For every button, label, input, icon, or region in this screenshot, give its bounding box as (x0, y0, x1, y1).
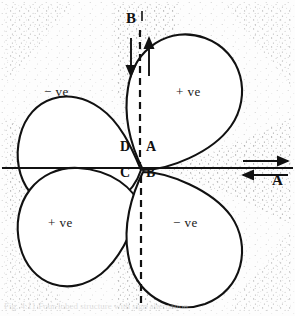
caption-strip: Fig. 4.11 Four-lobed structure with sign… (0, 300, 295, 316)
lobe-label-upper-right: + ve (176, 84, 201, 100)
lobe-label-upper-left: − ve (44, 84, 69, 100)
figure-caption: Fig. 4.11 Four-lobed structure with sign… (4, 301, 188, 311)
horizontal-axis-label-a: A (272, 172, 283, 189)
quadrant-label-b: B (146, 165, 155, 181)
quadrant-label-d: D (120, 139, 130, 155)
figure-container: − ve + ve + ve − ve D A C B B A Fig. 4.1… (0, 0, 295, 316)
lobe-label-lower-right: − ve (173, 215, 198, 231)
quadrant-label-a: A (146, 139, 156, 155)
quadrupole-diagram-svg (0, 0, 295, 316)
lobe-label-lower-left: + ve (48, 215, 73, 231)
vertical-axis-label-b: B (126, 10, 136, 27)
quadrant-label-c: C (120, 165, 130, 181)
